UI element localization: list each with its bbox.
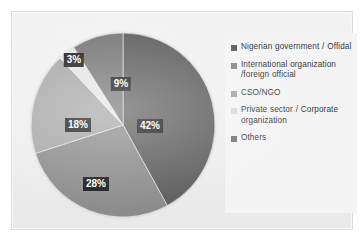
legend-item-international-organization[interactable]: International organization /foreign offi… <box>231 60 353 81</box>
legend-item-nigerian-government[interactable]: Nigerian government / Offidal <box>231 42 353 53</box>
legend-swatch-icon <box>231 108 237 114</box>
chart-plot-area: 42%28%18%3%9% Nigerian government / Offi… <box>11 11 353 230</box>
legend-swatch-icon <box>231 91 237 97</box>
legend-swatch-icon <box>231 63 237 69</box>
legend-item-label: Nigerian government / Offidal <box>241 42 351 53</box>
legend-swatch-icon <box>231 136 237 142</box>
pie-slice-value-label: 18% <box>65 118 91 132</box>
pie-slice-value-label: 42% <box>137 119 163 133</box>
legend-item-label: International organization /foreign offi… <box>241 60 353 81</box>
legend-swatch-icon <box>231 45 237 51</box>
pie-chart-svg <box>30 32 216 218</box>
legend-item-cso-ngo[interactable]: CSO/NGO <box>231 88 353 99</box>
legend-item-private-sector[interactable]: Private sector / Corporate organization <box>231 105 353 126</box>
legend-item-others[interactable]: Others <box>231 133 353 144</box>
legend-item-label: Private sector / Corporate organization <box>241 105 353 126</box>
chart-figure: 42%28%18%3%9% Nigerian government / Offi… <box>0 0 364 241</box>
pie-slice-value-label: 28% <box>83 177 109 191</box>
pie-slice-value-label: 9% <box>111 77 131 91</box>
pie-chart: 42%28%18%3%9% <box>30 32 216 218</box>
legend-item-label: Others <box>241 133 266 144</box>
legend-item-label: CSO/NGO <box>241 88 280 99</box>
pie-slice-value-label: 3% <box>64 53 84 67</box>
chart-legend: Nigerian government / Offidal Internatio… <box>225 33 357 213</box>
